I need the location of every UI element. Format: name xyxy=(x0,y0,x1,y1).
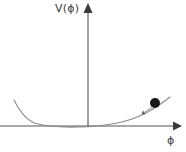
y-axis-arrowhead xyxy=(84,3,93,13)
y-axis-label: V(ϕ) xyxy=(55,3,79,14)
rolling-ball xyxy=(150,98,160,108)
potential-diagram: V(ϕ) ϕ xyxy=(0,0,186,152)
potential-curve xyxy=(14,97,170,127)
x-axis-label: ϕ xyxy=(167,135,174,146)
motion-direction-arrow-head xyxy=(142,111,146,115)
x-axis-arrowhead xyxy=(173,122,182,131)
diagram-canvas xyxy=(0,0,186,152)
